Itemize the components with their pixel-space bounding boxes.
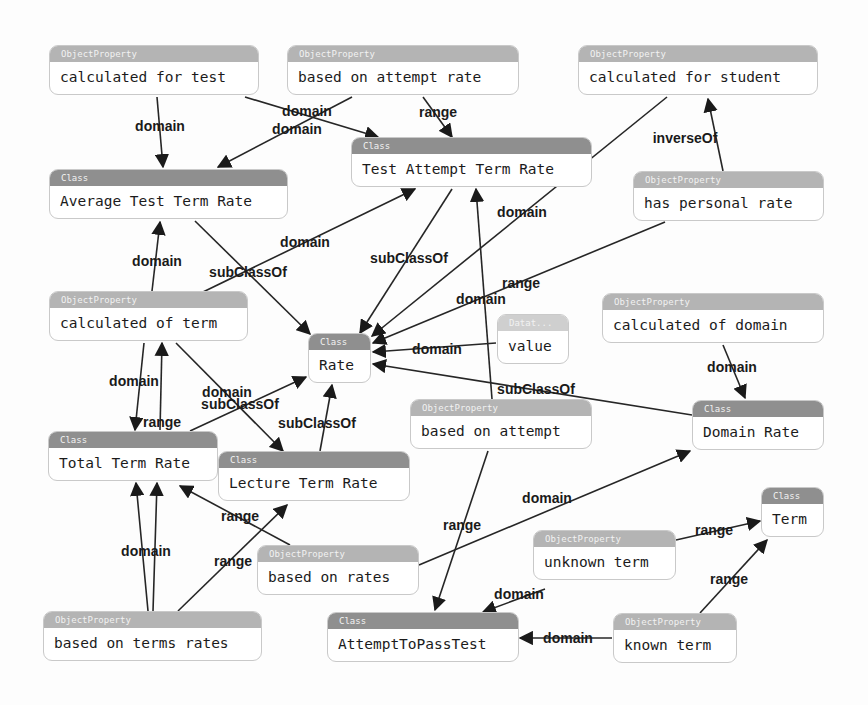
node-type-header: ObjectProperty bbox=[411, 400, 591, 416]
node-type-header: Class bbox=[219, 452, 409, 468]
node-calc-of-term[interactable]: ObjectPropertycalculated of term bbox=[49, 291, 248, 341]
node-test-attempt-term-rate[interactable]: ClassTest Attempt Term Rate bbox=[351, 137, 592, 187]
node-calc-of-domain[interactable]: ObjectPropertycalculated of domain bbox=[602, 293, 824, 343]
edge-label-domain: domain bbox=[121, 543, 171, 559]
edge-label-range: range bbox=[214, 553, 252, 569]
edge-label-domain: domain bbox=[522, 490, 572, 506]
node-type-header: ObjectProperty bbox=[614, 614, 736, 630]
edge-label-range: range bbox=[710, 571, 748, 587]
node-calc-for-student[interactable]: ObjectPropertycalculated for student bbox=[578, 45, 818, 95]
node-value[interactable]: Datat...value bbox=[497, 314, 569, 364]
node-unknown-term[interactable]: ObjectPropertyunknown term bbox=[533, 530, 676, 580]
edge-label-range: range bbox=[419, 104, 457, 120]
edge-label-subclassof: subClassOf bbox=[201, 396, 279, 412]
node-type-header: Class bbox=[762, 488, 823, 504]
edge-label-domain: domain bbox=[707, 359, 757, 375]
node-label: unknown term bbox=[534, 547, 675, 577]
node-based-on-terms-rates[interactable]: ObjectPropertybased on terms rates bbox=[43, 611, 262, 661]
node-type-header: ObjectProperty bbox=[258, 546, 418, 562]
node-type-header: Class bbox=[50, 170, 287, 186]
edge-label-range: range bbox=[695, 522, 733, 538]
node-avg-test-term-rate[interactable]: ClassAverage Test Term Rate bbox=[49, 169, 288, 219]
edge-label-domain: domain bbox=[412, 341, 462, 357]
edge-label-domain: domain bbox=[272, 121, 322, 137]
edge-label-range: range bbox=[502, 275, 540, 291]
node-type-header: Class bbox=[49, 432, 217, 448]
edge-label-subclassof: subClassOf bbox=[209, 264, 287, 280]
edge-label-domain: domain bbox=[456, 291, 506, 307]
node-label: value bbox=[498, 331, 568, 361]
node-type-header: ObjectProperty bbox=[534, 531, 675, 547]
node-label: calculated for test bbox=[50, 62, 258, 92]
node-type-header: ObjectProperty bbox=[634, 172, 823, 188]
node-label: AttemptToPassTest bbox=[328, 629, 518, 659]
edge-label-inverseof: inverseOf bbox=[653, 130, 718, 146]
node-type-header: Class bbox=[693, 401, 823, 417]
edge-label-domain: domain bbox=[494, 586, 544, 602]
node-label: Rate bbox=[309, 350, 370, 380]
node-type-header: ObjectProperty bbox=[50, 46, 258, 62]
node-type-header: Class bbox=[328, 613, 518, 629]
node-label: based on rates bbox=[258, 562, 418, 592]
node-known-term[interactable]: ObjectPropertyknown term bbox=[613, 613, 737, 663]
node-type-header: ObjectProperty bbox=[579, 46, 817, 62]
node-label: known term bbox=[614, 630, 736, 660]
node-type-header: Class bbox=[352, 138, 591, 154]
edge-label-range: range bbox=[221, 508, 259, 524]
node-type-header: ObjectProperty bbox=[603, 294, 823, 310]
node-has-personal-rate[interactable]: ObjectPropertyhas personal rate bbox=[633, 171, 824, 221]
node-based-on-rates[interactable]: ObjectPropertybased on rates bbox=[257, 545, 419, 595]
edge-label-domain: domain bbox=[497, 204, 547, 220]
node-type-header: ObjectProperty bbox=[50, 292, 247, 308]
node-label: calculated of term bbox=[50, 308, 247, 338]
edge-label-subclassof: subClassOf bbox=[497, 381, 575, 397]
node-lecture-term-rate[interactable]: ClassLecture Term Rate bbox=[218, 451, 410, 501]
node-total-term-rate[interactable]: ClassTotal Term Rate bbox=[48, 431, 218, 481]
node-label: Domain Rate bbox=[693, 417, 823, 447]
node-calc-for-test[interactable]: ObjectPropertycalculated for test bbox=[49, 45, 259, 95]
edge-label-subclassof: subClassOf bbox=[278, 415, 356, 431]
node-label: Total Term Rate bbox=[49, 448, 217, 478]
edge-label-subclassof: subClassOf bbox=[370, 250, 448, 266]
node-type-header: ObjectProperty bbox=[44, 612, 261, 628]
node-label: calculated of domain bbox=[603, 310, 823, 340]
node-type-header: Datat... bbox=[498, 315, 568, 331]
node-label: based on attempt bbox=[411, 416, 591, 446]
edge-label-domain: domain bbox=[543, 630, 593, 646]
node-label: calculated for student bbox=[579, 62, 817, 92]
edge-label-domain: domain bbox=[135, 118, 185, 134]
node-term[interactable]: ClassTerm bbox=[761, 487, 824, 537]
node-domain-rate[interactable]: ClassDomain Rate bbox=[692, 400, 824, 450]
node-label: Lecture Term Rate bbox=[219, 468, 409, 498]
node-type-header: Class bbox=[309, 334, 370, 350]
node-label: based on terms rates bbox=[44, 628, 261, 658]
node-label: Term bbox=[762, 504, 823, 534]
node-label: based on attempt rate bbox=[288, 62, 518, 92]
node-label: has personal rate bbox=[634, 188, 823, 218]
node-label: Test Attempt Term Rate bbox=[352, 154, 591, 184]
node-based-on-attempt[interactable]: ObjectPropertybased on attempt bbox=[410, 399, 592, 449]
edge-label-range: range bbox=[143, 414, 181, 430]
node-attempt-to-pass-test[interactable]: ClassAttemptToPassTest bbox=[327, 612, 519, 662]
node-type-header: ObjectProperty bbox=[288, 46, 518, 62]
edge-label-domain: domain bbox=[282, 103, 332, 119]
node-label: Average Test Term Rate bbox=[50, 186, 287, 216]
node-based-attempt-rate[interactable]: ObjectPropertybased on attempt rate bbox=[287, 45, 519, 95]
edge-label-range: range bbox=[443, 517, 481, 533]
edge-label-domain: domain bbox=[280, 234, 330, 250]
ontology-graph-canvas: ObjectPropertycalculated for testObjectP… bbox=[0, 0, 868, 705]
node-rate[interactable]: ClassRate bbox=[308, 333, 371, 383]
edge-label-domain: domain bbox=[109, 373, 159, 389]
edge-label-domain: domain bbox=[132, 253, 182, 269]
